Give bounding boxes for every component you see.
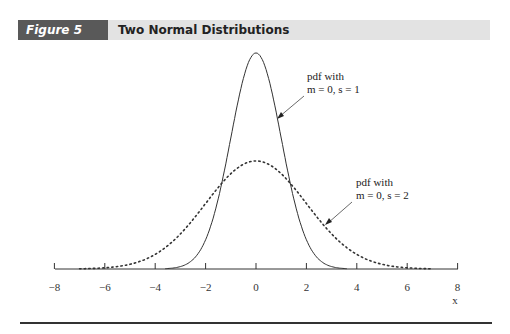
x-tick-label: 6	[404, 281, 410, 293]
arrowhead-icon	[325, 218, 332, 225]
x-tick-label: −4	[149, 281, 161, 293]
x-tick-label: 2	[304, 281, 310, 293]
annotation-sd1-line2: m = 0, s = 1	[307, 83, 360, 95]
annotation-sd1-line1: pdf with	[307, 70, 344, 82]
annotation-sd2: pdf with m = 0, s = 2	[325, 176, 409, 225]
annotation-sd2-line2: m = 0, s = 2	[356, 189, 409, 201]
x-tick-label: 8	[455, 281, 461, 293]
bottom-rule	[20, 322, 492, 324]
arrowhead-icon	[277, 112, 284, 119]
x-axis: −8−6−4−202468 x	[49, 263, 461, 306]
arrow-icon	[279, 96, 304, 117]
annotation-sd1: pdf with m = 0, s = 1	[277, 70, 360, 119]
x-tick-label: −8	[49, 281, 61, 293]
x-axis-label: x	[452, 294, 458, 306]
x-tick-label: 4	[354, 281, 360, 293]
chart: −8−6−4−202468 x pdf with m = 0, s = 1 pd…	[0, 0, 510, 334]
x-tick-label: −6	[99, 281, 111, 293]
x-tick-label: −2	[200, 281, 212, 293]
x-tick-label: 0	[253, 281, 259, 293]
annotation-sd2-line1: pdf with	[356, 176, 393, 188]
arrow-icon	[328, 202, 352, 223]
